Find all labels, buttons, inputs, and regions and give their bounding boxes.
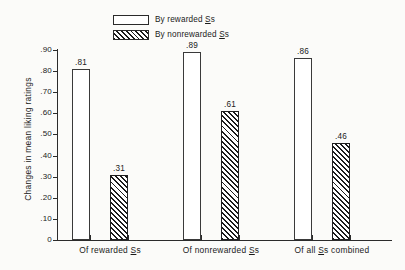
- legend-swatch-hatched: [113, 30, 149, 40]
- x-tick-mark: [312, 235, 313, 240]
- bar-hatched-group-1: [110, 175, 128, 240]
- y-tick-label: .70: [30, 87, 52, 96]
- y-tick-label: 0: [30, 235, 52, 244]
- legend-label-by-rewarded: By rewarded Ss: [155, 15, 215, 25]
- y-tick-label: .90: [30, 45, 52, 54]
- legend-item-by-nonrewarded: By nonrewarded Ss: [113, 28, 229, 41]
- y-tick-label: .80: [30, 66, 52, 75]
- x-tick-mark: [350, 235, 351, 240]
- x-group-label-3: Of all Ss combined: [272, 245, 392, 255]
- bar-hatched-group-2: [221, 111, 239, 240]
- bar-open-group-3: [294, 58, 312, 240]
- x-axis-line: [57, 240, 392, 241]
- x-group-label-1: Of rewarded Ss: [50, 245, 170, 255]
- chart-legend: By rewarded Ss By nonrewarded Ss: [113, 13, 229, 43]
- y-tick-mark: [53, 177, 58, 178]
- y-tick-mark: [53, 219, 58, 220]
- legend-item-by-rewarded: By rewarded Ss: [113, 13, 229, 26]
- y-tick-mark: [53, 50, 58, 51]
- y-tick-label: .20: [30, 193, 52, 202]
- y-tick-label: .10: [30, 214, 52, 223]
- bar-value-label: .86: [288, 47, 318, 56]
- x-tick-mark: [90, 235, 91, 240]
- bar-value-label: .31: [104, 164, 134, 173]
- bar-chart-figure: By rewarded Ss By nonrewarded Ss Changes…: [0, 0, 405, 270]
- bar-value-label: .89: [177, 41, 207, 50]
- legend-swatch-open: [113, 15, 149, 25]
- legend-label-by-nonrewarded: By nonrewarded Ss: [155, 30, 229, 40]
- y-tick-mark: [53, 134, 58, 135]
- x-tick-mark: [201, 235, 202, 240]
- y-tick-mark: [53, 240, 58, 241]
- y-tick-mark: [53, 71, 58, 72]
- y-tick-mark: [53, 198, 58, 199]
- bar-value-label: .46: [326, 132, 356, 141]
- x-tick-mark: [128, 235, 129, 240]
- x-group-label-2: Of nonrewarded Ss: [161, 245, 281, 255]
- y-axis-title: Changes in mean liking ratings: [23, 49, 33, 229]
- y-tick-mark: [53, 156, 58, 157]
- y-axis-line: [57, 49, 58, 241]
- y-tick-label: .40: [30, 151, 52, 160]
- bar-value-label: .81: [66, 58, 96, 67]
- y-tick-label: .30: [30, 172, 52, 181]
- bar-open-group-2: [183, 52, 201, 240]
- x-tick-mark: [239, 235, 240, 240]
- bar-value-label: .61: [215, 100, 245, 109]
- y-tick-mark: [53, 92, 58, 93]
- bar-hatched-group-3: [332, 143, 350, 240]
- y-tick-label: .60: [30, 108, 52, 117]
- y-tick-mark: [53, 113, 58, 114]
- y-tick-label: .50: [30, 129, 52, 138]
- bar-open-group-1: [72, 69, 90, 240]
